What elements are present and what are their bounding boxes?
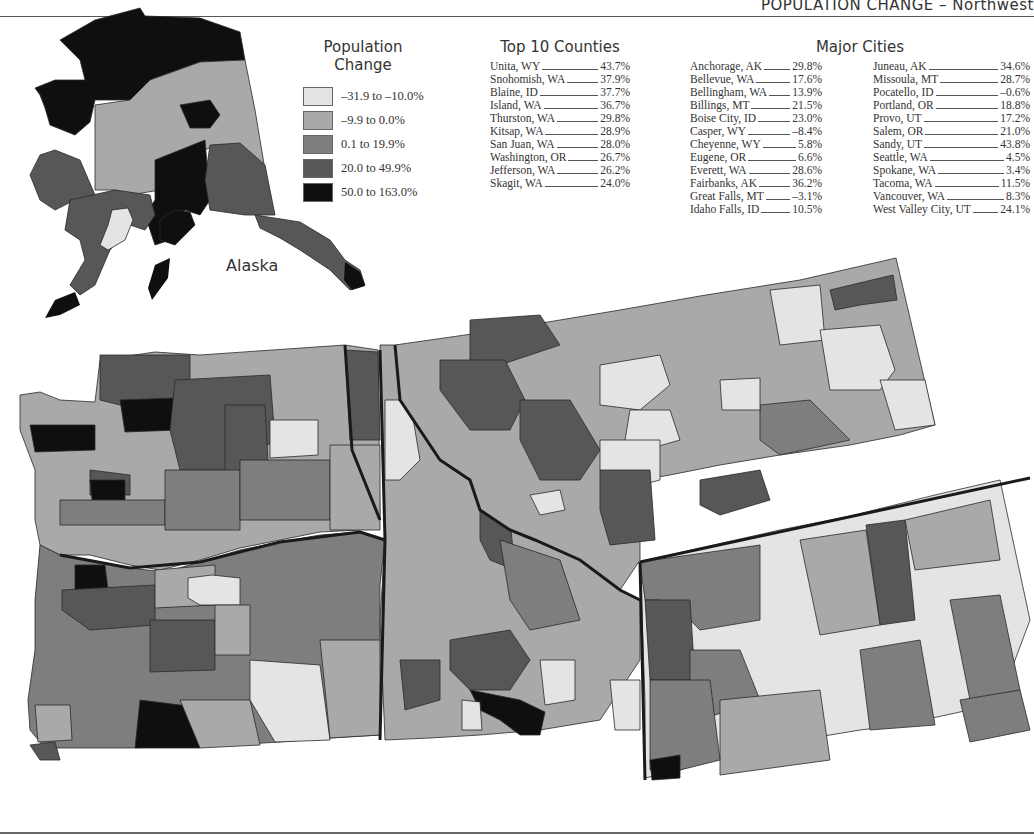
- list-item: Juneau, AK34.6%: [873, 60, 1030, 73]
- list-item: Island, WA36.7%: [490, 99, 630, 112]
- list-item: Pocatello, ID–0.6%: [873, 86, 1030, 99]
- list-item: Bellingham, WA13.9%: [690, 86, 822, 99]
- list-item: Kitsap, WA28.9%: [490, 125, 630, 138]
- city-name: Salem, OR: [873, 125, 923, 138]
- list-item: Fairbanks, AK36.2%: [690, 177, 822, 190]
- county-value: 26.7%: [600, 151, 630, 164]
- city-name: Idaho Falls, ID: [690, 203, 759, 216]
- list-item: Cheyenne, WY5.8%: [690, 138, 822, 151]
- county-name: Snohomish, WA: [490, 73, 565, 86]
- city-value: 28.6%: [792, 164, 822, 177]
- city-name: Billings, MT: [690, 99, 749, 112]
- list-item: Salem, OR21.0%: [873, 125, 1030, 138]
- legend-item: –31.9 to –10.0%: [303, 84, 463, 108]
- list-item: Skagit, WA24.0%: [490, 177, 630, 190]
- county-value: 36.7%: [600, 99, 630, 112]
- city-value: 34.6%: [1000, 60, 1030, 73]
- list-item: Portland, OR18.8%: [873, 99, 1030, 112]
- top-counties-list: Unita, WY43.7% Snohomish, WA37.9% Blaine…: [490, 60, 630, 190]
- city-value: 13.9%: [792, 86, 822, 99]
- county-name: Jefferson, WA: [490, 164, 555, 177]
- list-item: Great Falls, MT–3.1%: [690, 190, 822, 203]
- city-name: Pocatello, ID: [873, 86, 934, 99]
- city-value: 4.5%: [1006, 151, 1030, 164]
- city-value: 6.6%: [798, 151, 822, 164]
- city-value: 3.4%: [1006, 164, 1030, 177]
- major-cities-panel: Major Cities Anchorage, AK29.8% Bellevue…: [690, 38, 1030, 216]
- county-name: Island, WA: [490, 99, 542, 112]
- city-name: Bellevue, WA: [690, 73, 754, 86]
- city-value: 23.0%: [792, 112, 822, 125]
- city-name: Vancouver, WA: [873, 190, 945, 203]
- county-name: Kitsap, WA: [490, 125, 543, 138]
- county-value: 37.7%: [600, 86, 630, 99]
- cities-column-2: Juneau, AK34.6% Missoula, MT28.7% Pocate…: [873, 60, 1030, 216]
- legend-swatch: [303, 87, 333, 106]
- list-item: Eugene, OR6.6%: [690, 151, 822, 164]
- city-name: Portland, OR: [873, 99, 934, 112]
- list-item: Unita, WY43.7%: [490, 60, 630, 73]
- legend-label: 50.0 to 163.0%: [341, 185, 417, 200]
- county-value: 28.9%: [600, 125, 630, 138]
- list-item: Thurston, WA29.8%: [490, 112, 630, 125]
- list-item: Snohomish, WA37.9%: [490, 73, 630, 86]
- city-value: 28.7%: [1000, 73, 1030, 86]
- city-value: –3.1%: [792, 190, 822, 203]
- city-name: Provo, UT: [873, 112, 922, 125]
- county-value: 29.8%: [600, 112, 630, 125]
- city-value: 24.1%: [1000, 203, 1030, 216]
- city-value: 11.5%: [1001, 177, 1030, 190]
- city-name: Fairbanks, AK: [690, 177, 757, 190]
- county-name: Skagit, WA: [490, 177, 543, 190]
- county-value: 43.7%: [600, 60, 630, 73]
- list-item: Bellevue, WA17.6%: [690, 73, 822, 86]
- list-item: Tacoma, WA11.5%: [873, 177, 1030, 190]
- county-name: Unita, WY: [490, 60, 540, 73]
- legend-swatch: [303, 135, 333, 154]
- city-value: 5.8%: [798, 138, 822, 151]
- legend-item: 50.0 to 163.0%: [303, 180, 463, 204]
- city-value: 17.6%: [792, 73, 822, 86]
- legend-swatch: [303, 183, 333, 202]
- legend-label: –31.9 to –10.0%: [341, 89, 424, 104]
- city-name: Bellingham, WA: [690, 86, 767, 99]
- city-value: 17.2%: [1000, 112, 1030, 125]
- legend: Population Change –31.9 to –10.0% –9.9 t…: [303, 38, 463, 204]
- city-value: 29.8%: [792, 60, 822, 73]
- oregon-state: [28, 532, 385, 760]
- city-name: Missoula, MT: [873, 73, 938, 86]
- top-counties-panel: Top 10 Counties Unita, WY43.7% Snohomish…: [490, 38, 630, 190]
- list-item: West Valley City, UT24.1%: [873, 203, 1030, 216]
- wyoming-state: [640, 480, 1030, 780]
- county-value: 24.0%: [600, 177, 630, 190]
- city-value: 8.3%: [1006, 190, 1030, 203]
- list-item: Seattle, WA4.5%: [873, 151, 1030, 164]
- county-name: Thurston, WA: [490, 112, 555, 125]
- list-item: Jefferson, WA26.2%: [490, 164, 630, 177]
- alaska-label: Alaska: [226, 256, 278, 275]
- city-name: Sandy, UT: [873, 138, 922, 151]
- county-value: 26.2%: [600, 164, 630, 177]
- legend-label: –9.9 to 0.0%: [341, 113, 405, 128]
- legend-label: 0.1 to 19.9%: [341, 137, 405, 152]
- legend-item: –9.9 to 0.0%: [303, 108, 463, 132]
- city-name: West Valley City, UT: [873, 203, 971, 216]
- list-item: Sandy, UT43.8%: [873, 138, 1030, 151]
- cities-column-1: Anchorage, AK29.8% Bellevue, WA17.6% Bel…: [690, 60, 822, 216]
- city-value: 43.8%: [1000, 138, 1030, 151]
- list-item: Boise City, ID23.0%: [690, 112, 822, 125]
- county-name: Washington, OR: [490, 151, 566, 164]
- list-item: Provo, UT17.2%: [873, 112, 1030, 125]
- list-item: Vancouver, WA8.3%: [873, 190, 1030, 203]
- list-item: Spokane, WA3.4%: [873, 164, 1030, 177]
- list-item: Everett, WA28.6%: [690, 164, 822, 177]
- legend-swatch: [303, 159, 333, 178]
- list-item: Washington, OR26.7%: [490, 151, 630, 164]
- legend-label: 20.0 to 49.9%: [341, 161, 411, 176]
- list-item: Blaine, ID37.7%: [490, 86, 630, 99]
- list-item: Billings, MT21.5%: [690, 99, 822, 112]
- county-value: 28.0%: [600, 138, 630, 151]
- city-value: –0.6%: [1000, 86, 1030, 99]
- city-name: Cheyenne, WY: [690, 138, 761, 151]
- city-name: Spokane, WA: [873, 164, 936, 177]
